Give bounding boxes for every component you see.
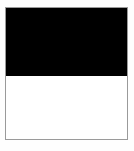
screenshot-canvas: black white [0, 0, 134, 151]
swatch-band-top: black [6, 8, 127, 76]
swatch-band-bottom: white [6, 76, 127, 139]
two-tone-swatch: black white [5, 7, 128, 140]
